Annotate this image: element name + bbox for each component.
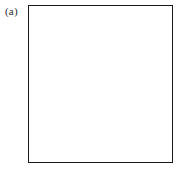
crossword-grid bbox=[28, 5, 173, 163]
figure-label: (a) bbox=[5, 5, 18, 17]
grid-outer-border bbox=[28, 5, 173, 163]
figure-panel: (a) bbox=[0, 0, 189, 169]
